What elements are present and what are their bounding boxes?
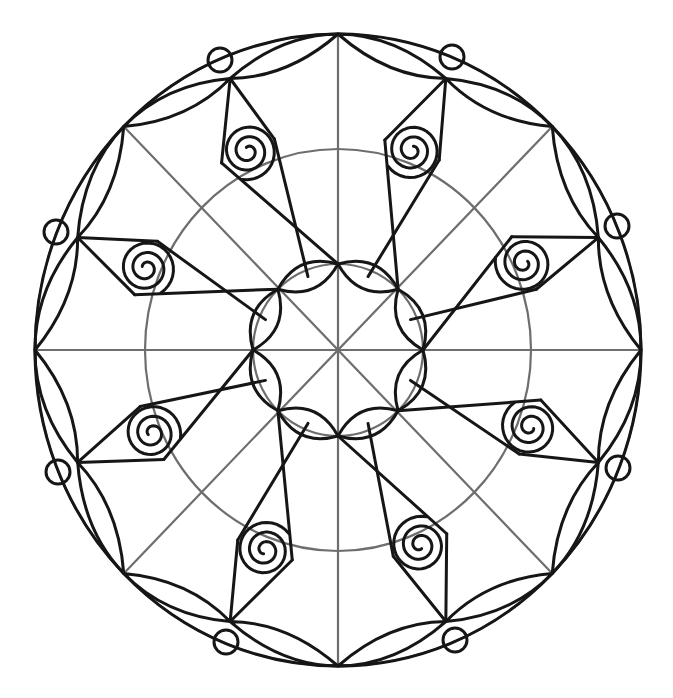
guide-lines [35,34,641,666]
outer-petal [552,462,598,573]
scroll-connector [541,400,599,462]
scroll-connector [338,436,447,534]
outer-petal [446,78,552,126]
scroll-connector [78,238,158,242]
scroll-connector [446,534,447,622]
outer-petal [446,573,552,621]
outer-petal [338,622,446,666]
scroll-connector [230,560,292,622]
outer-petal [35,350,78,462]
outer-petal [598,238,641,350]
scroll-connector [393,556,446,621]
scroll-connector [512,237,599,238]
scroll-connector [78,459,164,462]
scroll-connector [135,289,278,294]
spiral-scroll [123,243,173,293]
spiral-scroll [240,523,289,573]
mandala-artwork [0,0,673,698]
scroll-connector [140,380,265,406]
outer-petal [338,34,446,78]
outer-petal [78,127,124,238]
scroll-connector [536,238,598,290]
scroll-connector [157,241,265,319]
outer-petal [78,462,124,573]
scroll-connector [439,78,446,160]
scroll-connector [78,407,141,463]
scroll-connector [222,163,338,264]
scroll-connector [230,540,238,621]
outer-petal [35,238,78,350]
outer-petal [124,78,230,126]
scroll-connector [368,423,393,556]
scroll-connector [519,454,598,463]
scroll-connector [385,78,446,139]
spiral-scroll [388,127,437,177]
outer-petal [230,34,338,78]
outer-petal [124,573,230,621]
scroll-connector [423,237,512,350]
scroll-connector [274,139,308,277]
mandala-svg [0,0,673,698]
scroll-connector [78,238,135,295]
scroll-connector [411,289,537,319]
scroll-connector [164,350,253,459]
spiral-scroll [503,402,553,452]
outer-petal [230,622,338,666]
outer-petal [598,350,641,462]
outer-petal [552,127,598,238]
